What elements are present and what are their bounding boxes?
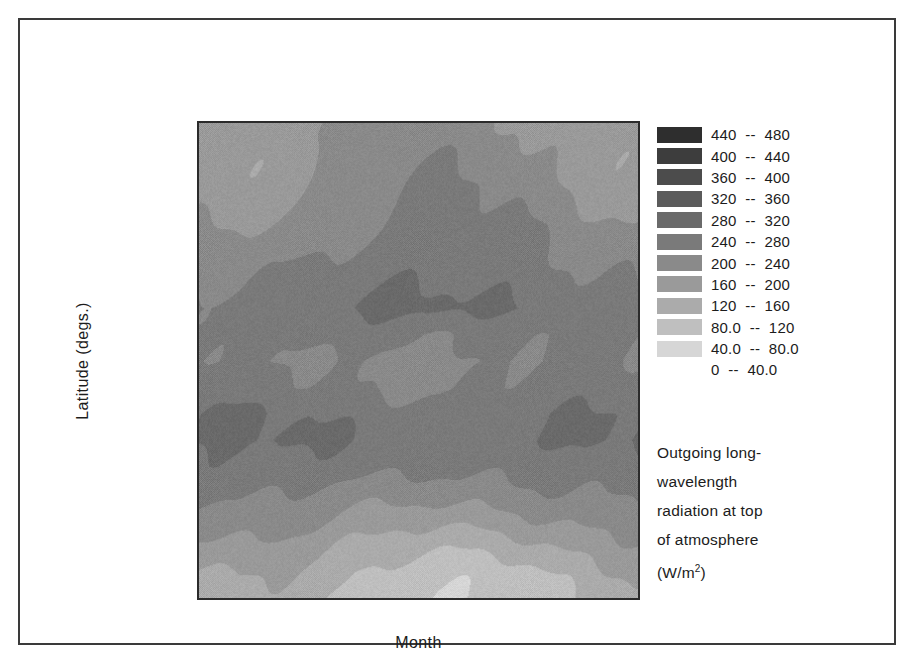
legend-swatch (657, 191, 702, 207)
legend-swatch (657, 362, 702, 378)
legend-swatch (657, 234, 702, 250)
y-tick-minor (197, 549, 199, 550)
caption-units-prefix: (W/m (657, 564, 695, 581)
legend-swatch (657, 255, 702, 271)
y-tick-minor (197, 283, 199, 284)
legend-label: 200 -- 240 (711, 255, 790, 272)
y-tick-major (197, 363, 199, 365)
x-tick-major (561, 598, 563, 600)
legend-swatch (657, 341, 702, 357)
legend-row: 240 -- 280 (657, 231, 799, 252)
legend-row: 360 -- 400 (657, 167, 799, 188)
legend-row: 440 -- 480 (657, 124, 799, 145)
legend-label: 160 -- 200 (711, 276, 790, 293)
y-tick-major (197, 416, 199, 418)
legend-row: 80.0 -- 120 (657, 317, 799, 338)
y-tick-major (197, 522, 199, 524)
y-tick-minor (197, 389, 199, 390)
caption-line: of atmosphere (657, 525, 837, 554)
contour-plot-area: 806040200-20-40-60-8024681012 (197, 121, 640, 600)
legend-swatch (657, 148, 702, 164)
y-tick-minor (197, 229, 199, 230)
y-axis-title: Latitude (degs.) (72, 121, 94, 600)
x-tick-minor (602, 598, 603, 600)
legend-label: 120 -- 160 (711, 297, 790, 314)
x-tick-major (481, 598, 483, 600)
caption-line: wavelength (657, 467, 837, 496)
x-tick-major (400, 598, 402, 600)
y-axis-title-text: Latitude (degs.) (74, 302, 92, 420)
legend-row: 200 -- 240 (657, 252, 799, 273)
legend-swatch (657, 127, 702, 143)
legend-label: 400 -- 440 (711, 148, 790, 165)
y-tick-major (197, 309, 199, 311)
legend-row: 400 -- 440 (657, 145, 799, 166)
caption-units: (W/m2) (657, 554, 837, 587)
legend-label: 40.0 -- 80.0 (711, 340, 799, 357)
x-tick-minor (280, 598, 281, 600)
legend-row: 320 -- 360 (657, 188, 799, 209)
y-tick-minor (197, 496, 199, 497)
legend-swatch (657, 169, 702, 185)
y-tick-major (197, 469, 199, 471)
y-tick-major (197, 203, 199, 205)
legend-row: 40.0 -- 80.0 (657, 338, 799, 359)
x-tick-minor (441, 598, 442, 600)
legend-swatch (657, 298, 702, 314)
caption-line: radiation at top (657, 496, 837, 525)
y-tick-minor (197, 442, 199, 443)
legend-swatch (657, 212, 702, 228)
legend-label: 280 -- 320 (711, 212, 790, 229)
legend-row: 120 -- 160 (657, 295, 799, 316)
y-tick-major (197, 575, 199, 577)
caption-line: Outgoing long- (657, 438, 837, 467)
legend-row: 160 -- 200 (657, 274, 799, 295)
legend-label: 240 -- 280 (711, 233, 790, 250)
legend-label: 440 -- 480 (711, 126, 790, 143)
legend-label: 320 -- 360 (711, 190, 790, 207)
chart-caption: Outgoing long-wavelengthradiation at top… (657, 438, 837, 587)
y-tick-major (197, 256, 199, 258)
y-tick-minor (197, 176, 199, 177)
x-tick-minor (360, 598, 361, 600)
y-tick-major (197, 150, 199, 152)
contour-field (199, 123, 638, 598)
x-tick-minor (521, 598, 522, 600)
x-axis-title: Month (197, 634, 640, 652)
y-tick-minor (197, 123, 199, 124)
x-tick-major (239, 598, 241, 600)
legend: 440 -- 480400 -- 440360 -- 400320 -- 360… (657, 124, 799, 381)
legend-label: 0 -- 40.0 (711, 361, 777, 378)
legend-label: 80.0 -- 120 (711, 319, 794, 336)
x-axis-title-text: Month (395, 634, 441, 651)
x-tick-minor (199, 598, 200, 600)
legend-label: 360 -- 400 (711, 169, 790, 186)
x-tick-major (320, 598, 322, 600)
y-tick-minor (197, 336, 199, 337)
caption-units-suffix: ) (701, 564, 706, 581)
legend-swatch (657, 319, 702, 335)
legend-row: 280 -- 320 (657, 210, 799, 231)
legend-swatch (657, 276, 702, 292)
figure-frame: 806040200-20-40-60-8024681012 Latitude (… (18, 18, 896, 645)
legend-row: 0 -- 40.0 (657, 359, 799, 380)
